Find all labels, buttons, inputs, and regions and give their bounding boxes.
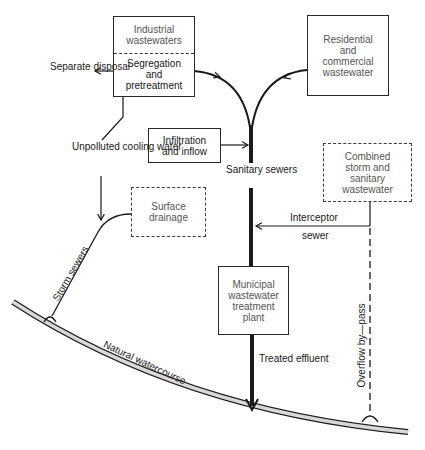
cooling-water-flow-upper [102, 96, 123, 140]
sanitary-sewers-label: Sanitary sewers [226, 164, 278, 175]
overflow-outfall-icon [362, 416, 378, 422]
sewer-label: sewer [302, 230, 329, 241]
wastewater-diagram: Industrial wastewaters Segregation and p… [0, 0, 425, 450]
natural-watercourse [13, 302, 408, 432]
interceptor-label: Interceptor [290, 212, 338, 223]
industrial-box: Industrial wastewaters Segregation and p… [113, 16, 195, 97]
overflow-bypass-label: Overflow by—pass [356, 304, 367, 388]
storm-sewer-line [52, 214, 131, 316]
residential-box: Residential and commercial wastewater [307, 15, 389, 96]
industrial-wastewaters-section: Industrial wastewaters [114, 17, 194, 54]
residential-to-sewer-flow [251, 70, 307, 135]
municipal-plant-box: Municipal wastewater treatment plant [218, 266, 289, 335]
combined-box: Combined storm and sanitary wastewater [323, 143, 412, 202]
surface-drainage-box: Surface drainage [131, 187, 206, 237]
segregation-pretreatment-section: Segregation and pretreatment [114, 53, 194, 96]
treated-effluent-label: Treated effluent [259, 353, 329, 364]
industrial-to-sewer-flow [194, 71, 251, 135]
unpolluted-cooling-water-label: Unpolluted cooling water [72, 141, 132, 152]
separate-disposal-label: Separate disposal [50, 61, 96, 72]
